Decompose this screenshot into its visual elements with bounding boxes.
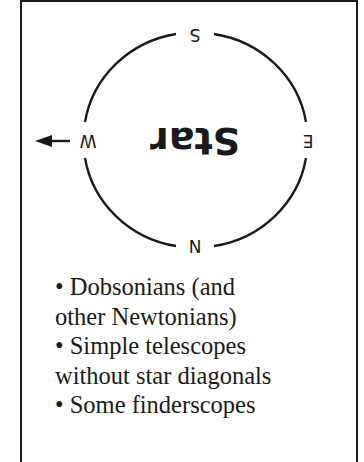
list-line: other Newtonians) bbox=[55, 302, 355, 332]
list-line: • Dobsonians (and bbox=[55, 272, 355, 302]
telescope-list: • Dobsonians (and other Newtonians) • Si… bbox=[55, 272, 355, 420]
compass-north-label: N bbox=[189, 237, 202, 257]
arc-bottom-left bbox=[85, 158, 176, 246]
compass-south-label: S bbox=[190, 25, 201, 45]
star-label: Star bbox=[150, 119, 240, 163]
arc-bottom-right bbox=[214, 158, 306, 246]
compass-diagram: S N W E Star bbox=[0, 0, 364, 270]
list-line: • Simple telescopes bbox=[55, 331, 355, 361]
west-arrow-icon bbox=[35, 135, 52, 147]
compass-west-label: W bbox=[79, 131, 96, 151]
arc-top-right bbox=[214, 34, 306, 122]
list-line: • Some finderscopes bbox=[55, 390, 355, 420]
list-line: without star diagonals bbox=[55, 361, 355, 391]
compass-east-label: E bbox=[303, 131, 314, 151]
arc-top-left bbox=[85, 34, 176, 122]
